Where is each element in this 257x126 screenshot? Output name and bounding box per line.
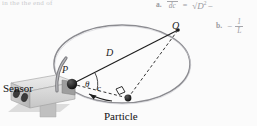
segment-D-label: D <box>106 47 113 58</box>
point-P-label: P <box>62 64 68 75</box>
angle-theta-label: θ <box>85 79 89 89</box>
segment-particle-to-Q <box>128 30 178 98</box>
point-Q-label: Q <box>172 20 179 31</box>
right-angle-marker <box>116 87 125 95</box>
particle-dot <box>125 95 132 102</box>
sensor-label: Sensor <box>3 82 33 94</box>
figure-page: in the the end of a. dc = √D2 − b. − 1 L <box>0 0 257 126</box>
point-P-dot <box>67 79 77 89</box>
segment-D <box>72 30 178 84</box>
particle-label: Particle <box>104 110 138 122</box>
circular-motion-diagram <box>0 0 257 126</box>
segment-c-label: c <box>97 83 101 93</box>
